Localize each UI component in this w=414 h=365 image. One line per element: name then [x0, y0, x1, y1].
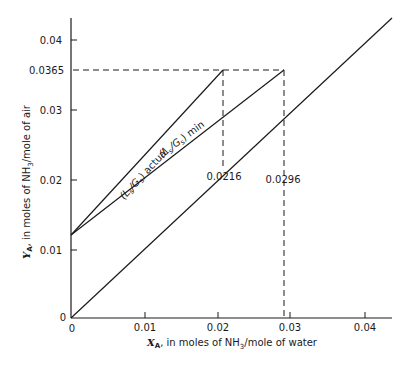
y-axis-title: YA, in moles of NH3/mole of air — [21, 104, 35, 259]
y-tick-label-0.03: 0.03 — [40, 105, 62, 116]
y-tick-label-0.02: 0.02 — [40, 175, 62, 186]
y-ticks — [71, 40, 77, 250]
annotation-0.0296: 0.0296 — [266, 174, 301, 185]
operating-line-actual — [71, 70, 223, 235]
x-axis-title: XA, in moles of NH3/mole of water — [146, 337, 318, 351]
reference-lines — [73, 70, 284, 318]
x-tick-label-0.02: 0.02 — [207, 322, 229, 333]
x-tick-label-0.01: 0.01 — [134, 322, 156, 333]
y-tick-label-0: 0 — [60, 312, 66, 323]
x-tick-label-0.03: 0.03 — [279, 322, 301, 333]
chart-canvas: 0.04 0.0365 0.03 0.02 0.01 0 0 0.01 0.02… — [0, 0, 414, 365]
operating-line-min — [71, 70, 284, 235]
annotation-0.0216: 0.0216 — [207, 171, 242, 182]
x-tick-label-0.04: 0.04 — [354, 322, 376, 333]
x-tick-label-0: 0 — [69, 323, 75, 334]
x-ticks — [145, 312, 365, 318]
y-tick-label-0.0365: 0.0365 — [29, 65, 64, 76]
label-min-line: (Ls/Gs) min — [157, 118, 208, 161]
equilibrium-line — [71, 18, 392, 318]
y-tick-label-0.04: 0.04 — [40, 35, 62, 46]
y-tick-label-0.01: 0.01 — [40, 245, 62, 256]
